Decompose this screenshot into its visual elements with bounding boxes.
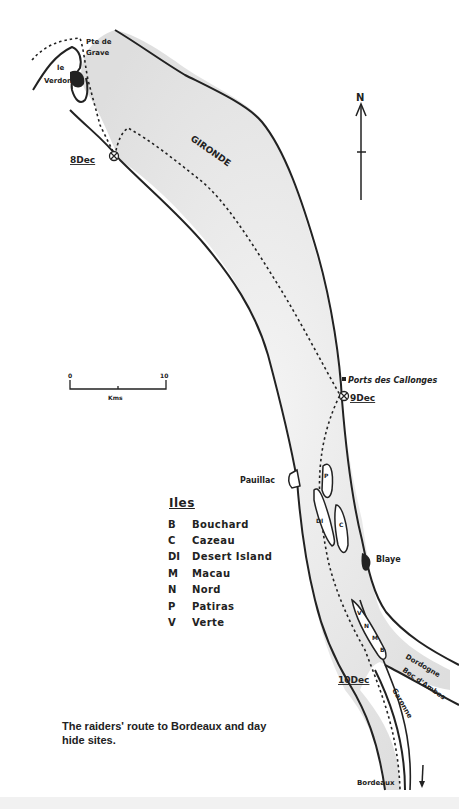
island-letter-p: P [324,472,329,479]
label-blaye: Blaye [376,555,401,564]
legend-item: DI Desert Island [163,549,303,565]
legend-code: C [163,535,190,546]
island-letter-v: V [357,609,362,616]
legend-name: Cazeau [190,535,235,546]
label-grave: Grave [86,49,109,57]
legend-name: Patiras [190,601,234,612]
north-arrow-icon [356,104,366,200]
legend-code: M [163,568,190,579]
legend-item: B Bouchard [163,516,303,532]
legend-code: N [163,584,190,595]
legend-name: Verte [190,617,224,628]
legend-item: C Cazeau [163,532,303,548]
gironde-estuary-map: Pte de Grave le Verdon GIRONDE 8Dec Port… [0,0,459,809]
island-letter-n: N [364,622,369,629]
legend-name: Macau [190,568,231,579]
north-label: N [356,92,364,103]
island-letter-di: DI [316,517,323,524]
page-bottom-band [0,797,459,809]
scale-unit-label: Kms [108,394,123,401]
scale-end-label: 10 [160,372,168,379]
legend-code: V [163,617,190,628]
label-9dec: 9Dec [350,393,375,403]
legend-name: Bouchard [190,519,249,530]
legend-item: N Nord [163,582,303,598]
legend-name: Desert Island [190,551,272,562]
legend-code: DI [163,551,190,562]
scale-start-label: 0 [68,372,72,379]
island-letter-b: B [380,646,385,653]
islands-legend: Iles B Bouchard C Cazeau DI Desert Islan… [163,496,303,631]
ports-des-callonges-marker [342,377,346,381]
legend-name: Nord [190,584,221,595]
scale-bar [70,380,166,389]
label-pte-de-grave: Pte de [86,38,112,46]
hide-site-marker-9dec [340,392,349,401]
legend-code: P [163,601,190,612]
hide-site-marker-8dec [110,152,119,161]
label-8dec: 8Dec [70,155,95,165]
label-pauillac: Pauillac [240,476,275,485]
estuary-water [81,30,450,790]
legend-code: B [163,519,190,530]
island-patiras [322,464,333,497]
legend-item: V Verte [163,614,303,630]
label-verdon: Verdon [44,77,72,85]
island-letter-c: C [339,521,344,528]
bordeaux-arrow-icon [419,765,425,788]
label-le: le [57,64,64,72]
map-caption: The raiders' route to Bordeaux and day h… [62,719,282,747]
label-bordeaux: Bordeaux [357,779,395,787]
legend-title: Iles [169,496,303,510]
island-letter-m: M [372,634,378,641]
legend-item: P Patiras [163,598,303,614]
label-ports-des-callonges: Ports des Callonges [348,376,437,385]
label-10dec: 10Dec [338,675,369,685]
legend-item: M Macau [163,565,303,581]
